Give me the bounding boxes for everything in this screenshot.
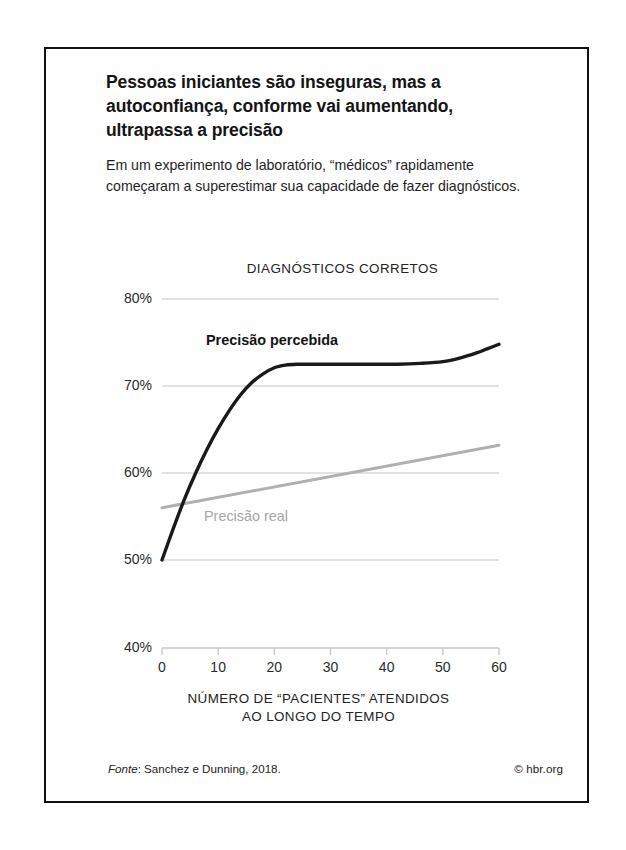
source-note: Fonte: Sanchez e Dunning, 2018.: [108, 762, 281, 775]
chart-plot-area: DIAGNÓSTICOS CORRETOS 80%70%60%50%40% 01…: [46, 49, 591, 805]
x-tick-label-0: 0: [142, 659, 182, 675]
series-group: [162, 344, 499, 560]
series-label-perceived: Precisão percebida: [206, 332, 338, 348]
y-tick-label-70: 70%: [96, 377, 152, 393]
x-tick-label-50: 50: [423, 659, 463, 675]
source-label: Fonte: [108, 762, 138, 775]
x-tick-label-30: 30: [311, 659, 351, 675]
x-tick-label-60: 60: [479, 659, 519, 675]
x-axis-title-line1: NÚMERO DE “PACIENTES” ATENDIDOS: [46, 690, 591, 708]
series-label-actual: Precisão real: [204, 508, 288, 524]
x-axis-group: [162, 648, 499, 655]
credit-note: © hbr.org: [514, 762, 563, 775]
x-axis-title-line2: AO LONGO DO TEMPO: [46, 708, 591, 726]
figure-frame: Pessoas iniciantes são inseguras, mas a …: [44, 47, 589, 803]
y-tick-label-50: 50%: [96, 551, 152, 567]
x-tick-label-40: 40: [367, 659, 407, 675]
y-tick-label-40: 40%: [96, 639, 152, 655]
x-tick-label-10: 10: [198, 659, 238, 675]
y-tick-label-60: 60%: [96, 464, 152, 480]
x-axis-title: NÚMERO DE “PACIENTES” ATENDIDOS AO LONGO…: [46, 690, 591, 726]
figure-footer: Fonte: Sanchez e Dunning, 2018. © hbr.or…: [108, 762, 563, 775]
x-tick-label-20: 20: [254, 659, 294, 675]
y-tick-label-80: 80%: [96, 290, 152, 306]
source-text: : Sanchez e Dunning, 2018.: [138, 762, 281, 775]
series-line-precis-o-percebida: [162, 344, 499, 560]
series-line-precis-o-real: [162, 445, 499, 508]
